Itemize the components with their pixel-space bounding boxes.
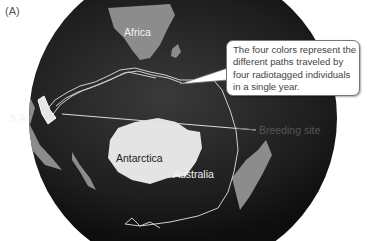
globe-map — [0, 0, 367, 241]
south-america-label: S.A. — [9, 112, 29, 124]
callout-line-4: in a single year. — [233, 81, 359, 93]
callout-line-1: The four colors represent the — [233, 44, 359, 56]
callout-line-3: four radiotagged individuals — [233, 69, 359, 81]
antarctica-label: Antarctica — [116, 152, 163, 164]
australia-label: Australia — [173, 168, 214, 180]
callout-line-2: different paths traveled by — [233, 56, 359, 68]
breeding-site-label: Breeding site — [259, 124, 320, 136]
africa-label: Africa — [124, 26, 151, 38]
callout-box: The four colors represent the different … — [226, 40, 360, 96]
ocean — [0, 0, 367, 241]
